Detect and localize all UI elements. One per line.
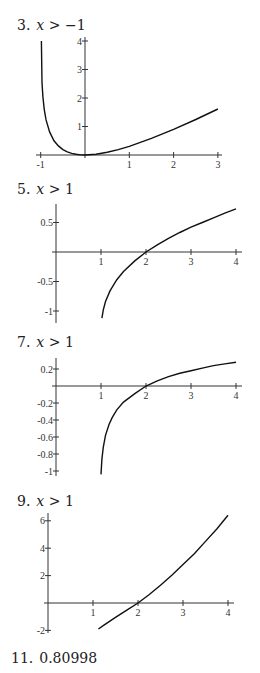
y-tick-label: 4 [77, 36, 82, 47]
x-tick-label: 3 [215, 159, 220, 170]
x-tick-label: 3 [189, 256, 194, 267]
problem-11-answer: 11.0.80998 [11, 650, 97, 666]
x-tick-label: -1 [37, 159, 45, 170]
y-tick-label: 0.2 [41, 364, 54, 375]
y-tick-label: 2 [77, 93, 82, 104]
y-tick-label: -2 [37, 625, 45, 636]
x-tick-label: 1 [99, 390, 104, 401]
y-tick-label: 3 [77, 64, 82, 75]
answer-sheet: 3.x > −1 5.x > 1 7.x > 1 9.x > 1 11.0.80… [0, 0, 260, 673]
y-tick-label: -1 [45, 306, 53, 317]
function-curve [41, 41, 218, 155]
plot-problem-3: -11231234 [36, 36, 222, 171]
x-tick-label: 3 [189, 390, 194, 401]
y-tick-label: 0.5 [41, 217, 54, 228]
plot-problem-5: 12340.5-0.5-1 [37, 204, 242, 323]
y-tick-label: -0.4 [37, 415, 53, 426]
y-tick-label: 1 [77, 121, 82, 132]
y-tick-label: -0.5 [37, 276, 53, 287]
plot-problem-9: 1234642-2 [37, 513, 234, 636]
y-tick-label: -0.6 [37, 432, 53, 443]
function-curve [102, 209, 236, 318]
y-tick-label: -0.8 [37, 449, 53, 460]
problem-9-title: 9.x > 1 [17, 493, 74, 509]
problem-5-title: 5.x > 1 [17, 181, 74, 197]
x-tick-label: 2 [171, 159, 176, 170]
x-tick-label: 4 [234, 256, 239, 267]
x-tick-label: 3 [181, 607, 186, 618]
x-tick-label: 2 [144, 390, 149, 401]
y-tick-label: -0.2 [37, 398, 53, 409]
plot-problem-7: 12340.2-0.2-0.4-0.6-0.8-1 [37, 358, 242, 477]
function-curve [101, 362, 236, 474]
x-tick-label: 4 [226, 607, 231, 618]
problem-7-title: 7.x > 1 [17, 334, 74, 350]
y-tick-label: -1 [45, 466, 53, 477]
x-tick-label: 4 [234, 390, 239, 401]
problem-3-title: 3.x > −1 [17, 17, 86, 33]
y-tick-label: 2 [40, 570, 45, 581]
y-tick-label: 6 [40, 515, 45, 526]
function-curve [98, 515, 228, 629]
x-tick-label: 2 [136, 607, 141, 618]
x-tick-label: 1 [99, 256, 104, 267]
x-tick-label: 2 [144, 256, 149, 267]
x-tick-label: 1 [91, 607, 96, 618]
y-tick-label: 4 [40, 543, 45, 554]
x-tick-label: 1 [127, 159, 132, 170]
